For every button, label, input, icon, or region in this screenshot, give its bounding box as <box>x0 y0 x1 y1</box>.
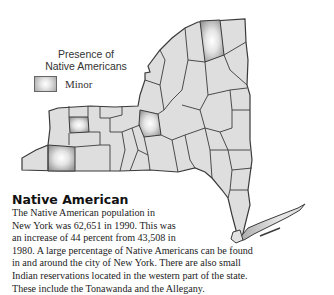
legend-title-line1: Presence of <box>36 48 136 60</box>
article-line: an increase of 44 percent from 43,508 in <box>12 232 332 245</box>
article-line: Indian reservations located in the weste… <box>12 270 332 283</box>
article-line: New York was 62,651 in 1990. This was <box>12 220 332 233</box>
legend-item-minor: Minor <box>34 76 93 92</box>
article-line: 1980. A large percentage of Native Ameri… <box>12 245 332 258</box>
legend-title: Presence of Native Americans <box>36 48 136 72</box>
legend-title-line2: Native Americans <box>36 60 136 72</box>
article-title: Native American <box>12 192 129 207</box>
legend-swatch-minor <box>34 76 57 92</box>
county-highlight-onondaga <box>139 110 161 137</box>
county-highlight-cattaraugus <box>48 145 75 171</box>
legend-label-minor: Minor <box>65 78 93 90</box>
article-line: in and around the city of New York. Ther… <box>12 257 332 270</box>
article-line: These include the Tonawanda and the Alle… <box>12 283 332 295</box>
article-line: The Native American population in <box>12 207 332 220</box>
county-highlight-genesee <box>69 117 89 133</box>
article-body: The Native American population in New Yo… <box>12 207 332 295</box>
